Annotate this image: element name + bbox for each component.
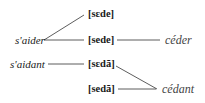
pronunciation-p3: [sɛdã] bbox=[88, 58, 115, 70]
source-s-aidant: s'aidant bbox=[10, 58, 45, 70]
edge-saider-p1 bbox=[44, 15, 84, 40]
target-ceder: céder bbox=[165, 34, 192, 46]
edge-p3-cedant bbox=[116, 66, 157, 89]
target-cedant: cédant bbox=[162, 83, 194, 95]
pronunciation-p4: [sedã] bbox=[88, 83, 115, 95]
pronunciation-p2: [sede] bbox=[88, 34, 114, 46]
source-s-aider: s'aider bbox=[15, 34, 45, 46]
pronunciation-p1: [sɛde] bbox=[88, 8, 114, 20]
